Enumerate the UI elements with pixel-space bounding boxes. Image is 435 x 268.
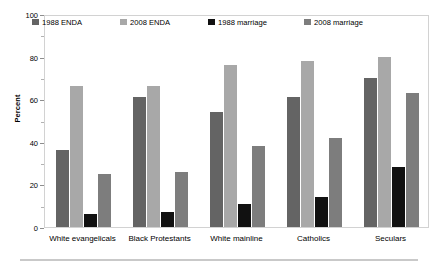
bar[interactable] — [98, 174, 111, 227]
chart-legend: 1988 ENDA2008 ENDA1988 marriage2008 marr… — [32, 15, 377, 29]
x-axis-label-4: Seculars — [375, 234, 406, 243]
legend-entry-2[interactable]: 1988 marriage — [208, 18, 267, 27]
bar[interactable] — [392, 167, 405, 227]
bar-group — [276, 16, 353, 227]
legend-label: 1988 marriage — [218, 18, 267, 27]
bar[interactable] — [161, 212, 174, 227]
x-axis-label-0: White evangelicals — [49, 234, 116, 243]
bar[interactable] — [287, 97, 300, 227]
legend-label: 1988 ENDA — [42, 18, 82, 27]
bar-group — [353, 16, 430, 227]
bar[interactable] — [133, 97, 146, 227]
bar[interactable] — [252, 146, 265, 227]
bar-chart-figure: Percent 020406080100 1988 ENDA2008 ENDA1… — [0, 0, 435, 268]
bar-group — [45, 16, 122, 227]
legend-label: 2008 marriage — [314, 18, 363, 27]
y-axis-tick-labels: 020406080100 — [12, 0, 38, 268]
legend-swatch-icon — [32, 19, 39, 26]
bar[interactable] — [70, 86, 83, 227]
plot-area — [44, 15, 429, 228]
bar-series-container — [45, 16, 428, 227]
legend-label: 2008 ENDA — [130, 18, 170, 27]
bar[interactable] — [329, 138, 342, 227]
legend-swatch-icon — [208, 19, 215, 26]
bar[interactable] — [224, 65, 237, 227]
bar[interactable] — [315, 197, 328, 227]
y-tick-label-60: 60 — [16, 96, 38, 105]
legend-swatch-icon — [304, 19, 311, 26]
y-tick-label-20: 20 — [16, 181, 38, 190]
footer-divider — [20, 259, 418, 261]
bar[interactable] — [301, 61, 314, 227]
bar[interactable] — [378, 57, 391, 227]
y-tick-major — [40, 228, 44, 229]
bar[interactable] — [175, 172, 188, 227]
bar[interactable] — [56, 150, 69, 227]
bar[interactable] — [364, 78, 377, 227]
legend-entry-3[interactable]: 2008 marriage — [304, 18, 363, 27]
x-axis-label-3: Catholics — [297, 234, 330, 243]
x-axis-label-1: Black Protestants — [128, 234, 190, 243]
bar[interactable] — [406, 93, 419, 227]
legend-entry-1[interactable]: 2008 ENDA — [120, 18, 170, 27]
bar[interactable] — [238, 204, 251, 227]
x-axis-label-2: White mainline — [210, 234, 262, 243]
bar[interactable] — [84, 214, 97, 227]
bar-group — [199, 16, 276, 227]
bar-group — [122, 16, 199, 227]
bar[interactable] — [147, 86, 160, 227]
y-tick-label-0: 0 — [16, 224, 38, 233]
y-tick-label-40: 40 — [16, 138, 38, 147]
legend-swatch-icon — [120, 19, 127, 26]
bar[interactable] — [210, 112, 223, 227]
y-tick-label-80: 80 — [16, 53, 38, 62]
legend-entry-0[interactable]: 1988 ENDA — [32, 18, 82, 27]
